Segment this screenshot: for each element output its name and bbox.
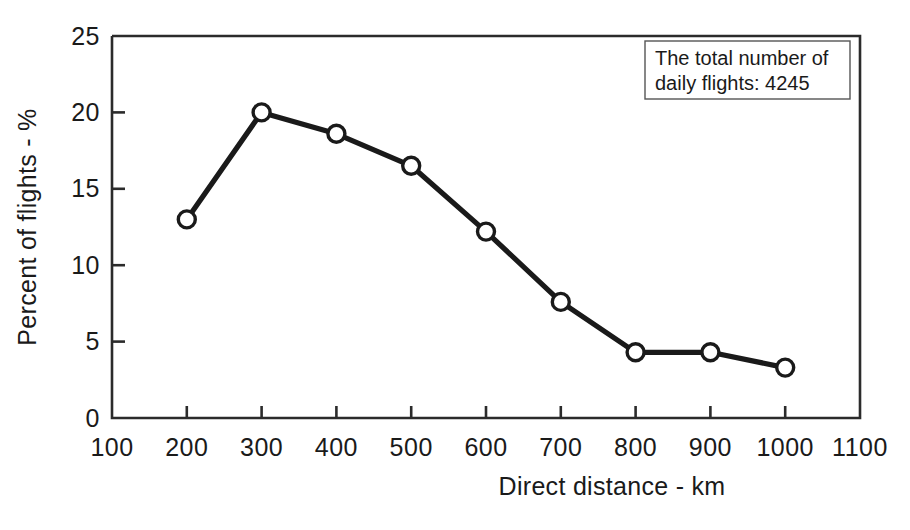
data-point-marker — [403, 157, 420, 174]
y-tick-label-10: 10 — [71, 251, 100, 279]
data-point-marker — [178, 211, 195, 228]
data-point-marker — [627, 344, 644, 361]
x-tick-label-1100: 1100 — [832, 433, 888, 461]
x-tick-label-100: 100 — [90, 433, 133, 461]
y-tick-label-5: 5 — [86, 327, 100, 355]
total-flights-annotation-box: The total number of daily flights: 4245 — [645, 41, 850, 99]
x-tick-label-1000: 1000 — [756, 433, 814, 461]
data-point-marker — [478, 223, 495, 240]
x-tick-label-700: 700 — [539, 433, 582, 461]
y-tick-label-15: 15 — [71, 174, 100, 202]
annotation-line-1: The total number of — [655, 47, 829, 69]
x-tick-label-900: 900 — [689, 433, 732, 461]
data-point-marker — [552, 293, 569, 310]
annotation-line-2: daily flights: 4245 — [655, 72, 810, 94]
data-point-marker — [702, 344, 719, 361]
x-tick-label-200: 200 — [165, 433, 208, 461]
y-axis-title: Percent of flights - % — [13, 108, 41, 345]
data-point-marker — [328, 125, 345, 142]
y-tick-label-20: 20 — [71, 98, 100, 126]
x-tick-label-800: 800 — [614, 433, 657, 461]
flights-vs-distance-line-chart: 25 20 15 10 5 0 100 200 300 400 500 600 … — [0, 0, 910, 530]
x-tick-label-400: 400 — [315, 433, 358, 461]
x-tick-label-300: 300 — [240, 433, 283, 461]
y-tick-label-0: 0 — [86, 404, 100, 432]
x-tick-label-600: 600 — [464, 433, 507, 461]
x-axis-title: Direct distance - km — [499, 472, 726, 500]
y-tick-label-25: 25 — [71, 22, 100, 50]
chart-container: 25 20 15 10 5 0 100 200 300 400 500 600 … — [0, 0, 910, 530]
data-point-marker — [253, 104, 270, 121]
data-point-marker — [777, 359, 794, 376]
x-tick-label-500: 500 — [390, 433, 433, 461]
